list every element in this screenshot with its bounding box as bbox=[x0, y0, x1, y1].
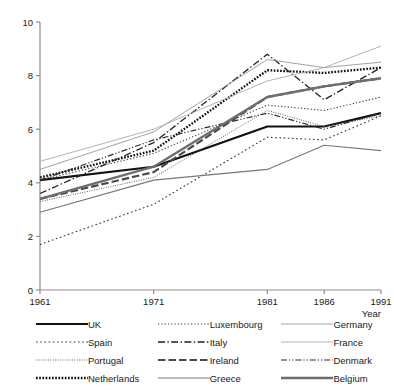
legend-sample-cell bbox=[275, 315, 333, 333]
chart-legend: UKLuxembourgGermanySpainItalyFrancePortu… bbox=[30, 315, 382, 387]
y-tick-label: 4 bbox=[28, 177, 33, 188]
legend-label-france[interactable]: France bbox=[333, 333, 382, 351]
x-tick-label: 1981 bbox=[257, 296, 278, 307]
legend-label-luxembourg[interactable]: Luxembourg bbox=[210, 315, 276, 333]
legend-swatch-italy bbox=[158, 337, 210, 347]
series-layer bbox=[40, 46, 381, 244]
x-tick-label: 1971 bbox=[143, 296, 164, 307]
series-line-france bbox=[40, 46, 381, 161]
legend-sample-cell bbox=[275, 333, 333, 351]
y-tick-label: 10 bbox=[22, 17, 33, 28]
legend-sample-cell bbox=[152, 369, 210, 387]
legend-sample-cell bbox=[30, 369, 88, 387]
legend-swatch-germany bbox=[281, 319, 333, 329]
legend-table: UKLuxembourgGermanySpainItalyFrancePortu… bbox=[30, 315, 382, 387]
legend-row: UKLuxembourgGermany bbox=[30, 315, 382, 333]
legend-label-belgium[interactable]: Belgium bbox=[333, 369, 382, 387]
axes-layer bbox=[36, 22, 381, 294]
series-line-netherlands bbox=[40, 68, 381, 178]
legend-swatch-greece bbox=[158, 373, 210, 383]
x-tick-label: 1961 bbox=[29, 296, 50, 307]
legend-sample-cell bbox=[30, 351, 88, 369]
y-tick-label: 6 bbox=[28, 124, 33, 135]
series-line-italy bbox=[40, 54, 381, 193]
legend-sample-cell bbox=[30, 315, 88, 333]
legend-sample-cell bbox=[152, 333, 210, 351]
y-tick-label: 2 bbox=[28, 231, 33, 242]
legend-label-ireland[interactable]: Ireland bbox=[210, 351, 276, 369]
series-line-greece bbox=[40, 145, 381, 212]
legend-sample-cell bbox=[275, 351, 333, 369]
legend-swatch-france bbox=[281, 337, 333, 347]
legend-label-germany[interactable]: Germany bbox=[333, 315, 382, 333]
series-line-germany bbox=[40, 60, 381, 170]
legend-swatch-netherlands bbox=[36, 373, 88, 383]
legend-row: PortugalIrelandDenmark bbox=[30, 351, 382, 369]
legend-row: SpainItalyFrance bbox=[30, 333, 382, 351]
x-tick-label: 1986 bbox=[314, 296, 335, 307]
legend-label-italy[interactable]: Italy bbox=[210, 333, 276, 351]
legend-label-greece[interactable]: Greece bbox=[210, 369, 276, 387]
legend-swatch-denmark bbox=[281, 355, 333, 365]
legend-swatch-belgium bbox=[281, 373, 333, 383]
legend-swatch-uk bbox=[36, 319, 88, 329]
legend-sample-cell bbox=[30, 333, 88, 351]
legend-swatch-portugal bbox=[36, 355, 88, 365]
legend-label-portugal[interactable]: Portugal bbox=[88, 351, 152, 369]
legend-sample-cell bbox=[152, 315, 210, 333]
x-tick-label: 1991 bbox=[370, 296, 391, 307]
legend-swatch-ireland bbox=[158, 355, 210, 365]
legend-swatch-luxembourg bbox=[158, 319, 210, 329]
legend-label-spain[interactable]: Spain bbox=[88, 333, 152, 351]
line-chart: 024681019611971198119861991Year UKLuxemb… bbox=[0, 0, 394, 392]
legend-sample-cell bbox=[275, 369, 333, 387]
legend-sample-cell bbox=[152, 351, 210, 369]
y-tick-label: 8 bbox=[28, 70, 33, 81]
legend-label-uk[interactable]: UK bbox=[88, 315, 152, 333]
legend-label-netherlands[interactable]: Netherlands bbox=[88, 369, 152, 387]
legend-label-denmark[interactable]: Denmark bbox=[333, 351, 382, 369]
y-tick-label: 0 bbox=[28, 285, 33, 296]
legend-row: NetherlandsGreeceBelgium bbox=[30, 369, 382, 387]
legend-swatch-spain bbox=[36, 337, 88, 347]
